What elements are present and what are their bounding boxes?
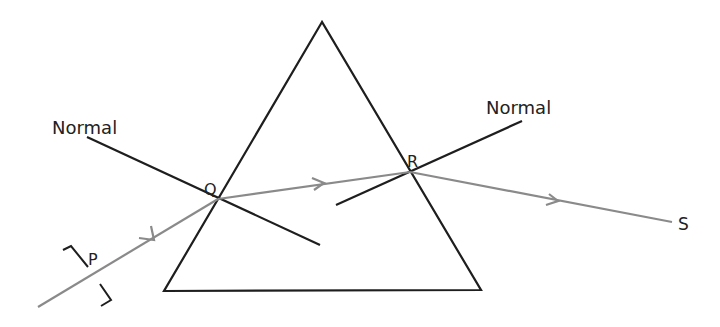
normal-label-left: Normal [52, 117, 117, 138]
normal-line-r [336, 121, 522, 205]
normal-label-right: Normal [486, 97, 551, 118]
point-label-s: S [678, 214, 689, 234]
point-label-q: Q [204, 180, 217, 199]
bracket-p-upper [63, 246, 88, 267]
emergent-ray [410, 172, 672, 222]
point-label-p: P [88, 250, 98, 269]
bracket-p-lower [100, 284, 111, 306]
point-label-r: R [407, 152, 418, 171]
prism-triangle [164, 22, 481, 291]
prism-diagram: Normal Normal Q R P S [0, 0, 720, 327]
